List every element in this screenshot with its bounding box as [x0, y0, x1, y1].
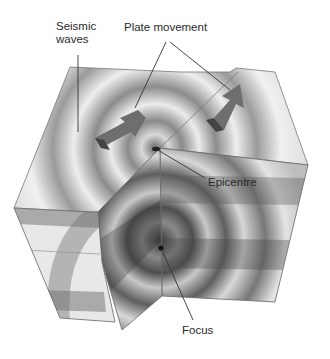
block-illustration [0, 0, 330, 359]
earthquake-diagram: Seismic waves Plate movement Epicentre F… [0, 0, 330, 359]
label-epicentre: Epicentre [208, 176, 257, 189]
label-plate-movement: Plate movement [124, 21, 207, 34]
right-face [150, 140, 320, 310]
label-seismic-waves: Seismic waves [56, 20, 96, 46]
label-focus: Focus [182, 324, 213, 337]
